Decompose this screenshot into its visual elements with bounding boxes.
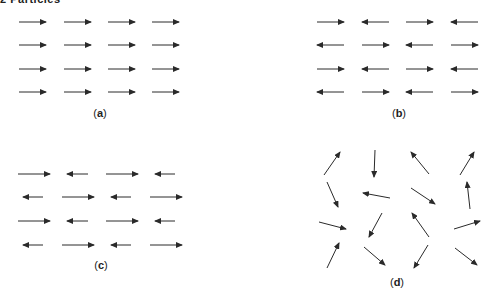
spin-arrow-icon: [327, 182, 338, 207]
spin-arrow-icon: [455, 248, 477, 265]
panel-d-paramagnetic: (d): [319, 150, 480, 288]
spin-arrow-icon: [467, 182, 470, 209]
panel-b-antiferromagnetic: (b): [317, 22, 478, 119]
panel-a-ferromagnetic: (a): [19, 22, 179, 119]
spin-arrow-icon: [411, 188, 435, 204]
spin-ordering-diagram: (a) (b) (c) (d): [0, 0, 492, 296]
panel-label-c: (c): [94, 259, 107, 271]
panel-label-b: (b): [392, 107, 406, 119]
spin-arrow-icon: [327, 243, 339, 268]
spin-arrow-icon: [363, 193, 390, 198]
spin-arrow-icon: [364, 247, 385, 265]
spin-arrow-icon: [412, 213, 429, 237]
spin-arrow-icon: [324, 152, 340, 175]
spin-arrow-icon: [460, 152, 474, 175]
spin-arrow-icon: [374, 150, 375, 177]
panel-label-a: (a): [93, 107, 106, 119]
spin-arrow-icon: [319, 222, 346, 229]
panel-label-d: (d): [390, 276, 404, 288]
panel-c-ferrimagnetic: (c): [18, 174, 182, 271]
spin-arrow-icon: [411, 152, 429, 174]
spin-arrow-icon: [414, 245, 428, 268]
spin-arrow-icon: [369, 213, 382, 237]
spin-arrow-icon: [454, 221, 480, 229]
